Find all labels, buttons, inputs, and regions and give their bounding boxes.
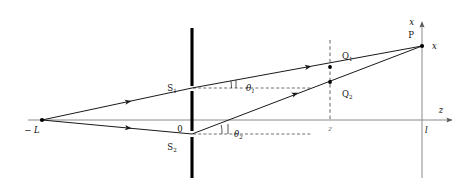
x-axis-label: x	[409, 17, 414, 27]
source-label: − L	[24, 125, 40, 135]
arrowhead-source-to-slit1	[124, 98, 132, 104]
optics-diagram-figure: − L S1 S2 0 θ1 θ2 Q1 Q2 P x x z z l	[0, 0, 469, 195]
points-group	[40, 44, 424, 122]
ray-source-to-slit2	[42, 120, 192, 134]
x-coordinate-label: x	[432, 41, 437, 51]
angle-markers-group	[221, 80, 236, 134]
q2-label: Q2	[342, 89, 353, 100]
z-coordinate-label: z	[327, 125, 332, 133]
origin-label: 0	[177, 124, 182, 134]
theta-2-label: θ2	[234, 129, 243, 140]
ray-slit2-to-P	[192, 46, 422, 134]
slit-2-label: S2	[167, 142, 177, 153]
p-point-dot	[420, 44, 424, 48]
source-point-dot	[40, 118, 44, 122]
theta-1-label: θ1	[246, 83, 255, 94]
axes-group	[28, 22, 452, 178]
diagram-canvas: − L S1 S2 0 θ1 θ2 Q1 Q2 P x x z z l	[0, 0, 469, 195]
q1-label: Q1	[342, 51, 353, 62]
rays-group	[42, 46, 422, 134]
theta2-arc	[221, 125, 222, 134]
theta1-arc	[231, 81, 232, 88]
ray-direction-arrows	[124, 64, 312, 131]
q1-point-dot	[328, 65, 332, 69]
z-axis-label: z	[438, 105, 444, 115]
labels-group: − L S1 S2 0 θ1 θ2 Q1 Q2 P x x z z l	[24, 17, 443, 153]
slit-1-label: S1	[167, 83, 176, 94]
q2-point-dot	[328, 80, 332, 84]
p-label: P	[408, 30, 414, 40]
l-coordinate-label: l	[425, 125, 428, 135]
